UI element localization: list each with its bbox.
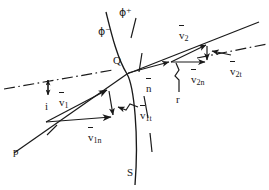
v2t-leader-arrow [212, 51, 231, 55]
dashdot-axis-left [4, 70, 113, 89]
vector-v1n [46, 117, 111, 122]
label-phi-minus: ϕ− [98, 22, 110, 38]
vector-v1 [46, 90, 107, 122]
label-point-q: Q [113, 55, 121, 66]
label-phi-plus: ϕ+ [119, 3, 131, 19]
label-v1: v1 [59, 93, 69, 110]
label-angle-r: r [176, 94, 180, 105]
diagram-svg [0, 0, 269, 190]
angle-r-leader [175, 63, 179, 92]
label-v2: v2 [179, 26, 189, 43]
incident-ray-p [14, 74, 127, 153]
label-v1n: v1n [88, 128, 102, 145]
figure-canvas: ϕ+ ϕ− Q n v1 v1n v1t v2 v2n v2t i r p S [0, 0, 269, 190]
label-surface-s: S [127, 167, 133, 178]
label-v2n: v2n [191, 70, 205, 87]
label-ray-p: p [13, 146, 19, 157]
normal-vector-n [128, 62, 169, 73]
label-angle-i: i [45, 101, 48, 112]
label-v2t: v2t [230, 62, 242, 79]
vector-v1t [109, 91, 113, 115]
label-v1t: v1t [140, 106, 152, 123]
label-n-hat: n [146, 79, 152, 95]
vector-v2 [171, 45, 206, 62]
